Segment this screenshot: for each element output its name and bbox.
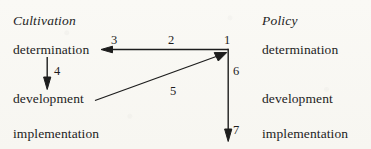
edge-label-6: 6 <box>233 65 239 78</box>
edge-label-1: 1 <box>224 34 230 47</box>
edge-label-2: 2 <box>168 34 174 47</box>
edge-horizontal-arrowhead <box>101 46 113 53</box>
edge-diagonal-arrowhead <box>214 53 227 62</box>
edge-vertical-right-arrowhead <box>225 129 232 142</box>
edge-label-3: 3 <box>111 34 117 47</box>
edge-label-5: 5 <box>170 85 176 98</box>
edge-label-7: 7 <box>233 124 239 137</box>
edge-diagonal-line <box>95 56 219 101</box>
edge-label-4: 4 <box>54 65 60 78</box>
diagram-canvas: Cultivation Policy determination develop… <box>0 0 371 149</box>
edge-vertical-left-arrowhead <box>44 77 51 90</box>
